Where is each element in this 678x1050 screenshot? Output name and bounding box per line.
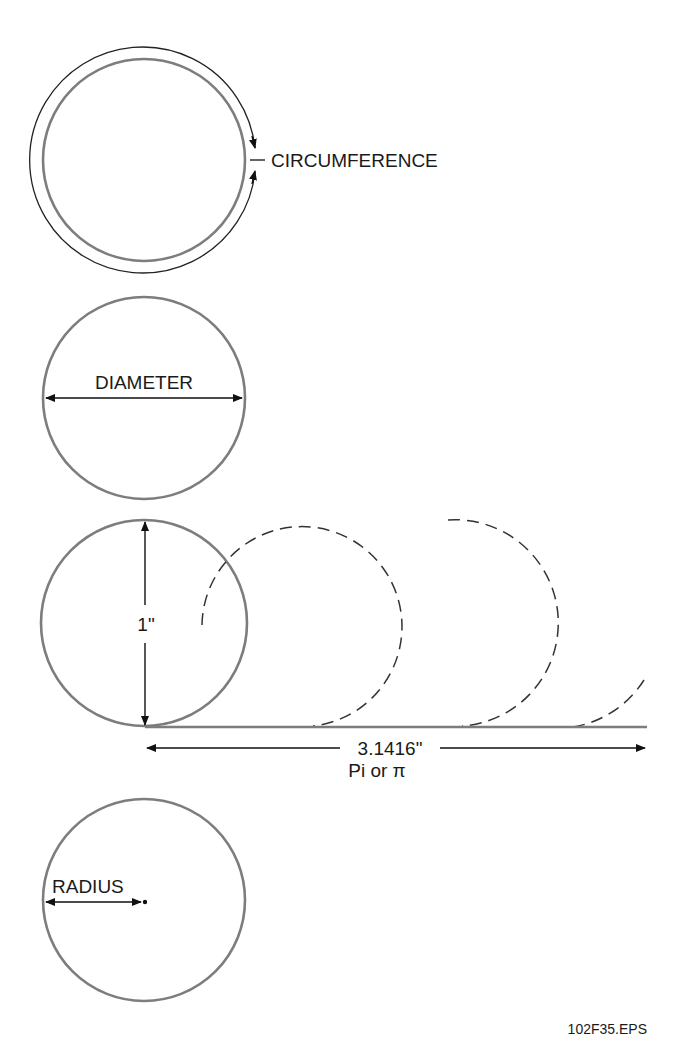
circumference-label: CIRCUMFERENCE [271,150,438,171]
radius-circle [43,799,245,1001]
rolling-arc-2 [448,520,558,726]
rolling-arc-3 [573,680,644,727]
one-inch-label: 1" [137,614,154,635]
diameter-label: DIAMETER [95,372,193,393]
circumference-circle [43,59,245,261]
diameter-panel: DIAMETER [43,297,245,499]
center-point [143,900,147,904]
length-label: 3.1416" [358,738,423,759]
radius-label: RADIUS [52,876,124,897]
figure-file-id: 102F35.EPS [568,1021,647,1037]
circumference-panel: CIRCUMFERENCE [30,47,438,273]
pi-label: Pi or π [348,760,405,781]
rolling-arc-1 [202,527,402,726]
circumference-outer-arc [30,47,255,273]
circle-geometry-diagram: CIRCUMFERENCE DIAMETER 1" 3.1416" Pi or … [0,0,678,1050]
radius-panel: RADIUS [43,799,245,1001]
pi-panel: 1" 3.1416" Pi or π [41,520,647,781]
